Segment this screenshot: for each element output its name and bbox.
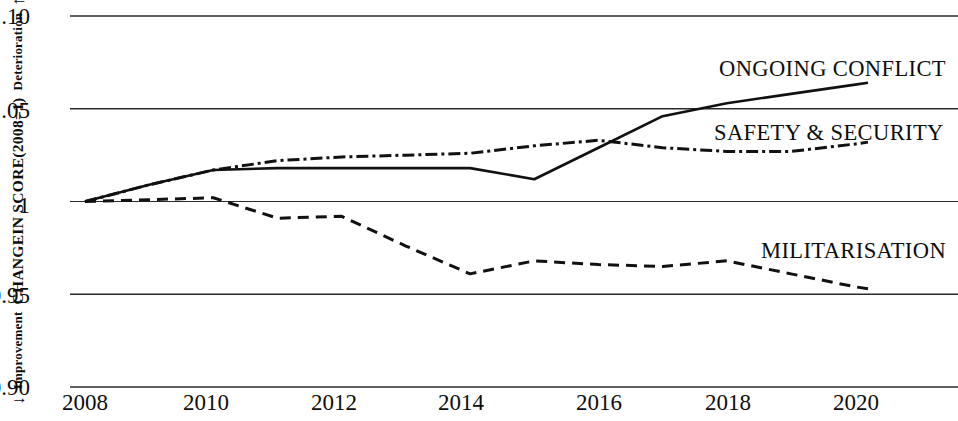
x-tick-2012: 2012 [289,390,379,416]
y-axis-main-label: CHANGEIN SCORE(2008=1) [9,97,27,304]
series-line-militarisation [85,198,868,289]
x-tick-2018: 2018 [683,390,773,416]
series-label-safety-security: SAFETY & SECURITY [714,120,944,146]
series-label-ongoing-conflict: ONGOING CONFLICT [719,56,946,82]
deterioration-arrow-icon: ↑ [10,0,27,6]
x-tick-2016: 2016 [554,390,644,416]
series-label-militarisation: MILITARISATION [761,238,946,264]
series-line-safety-security [85,140,868,201]
y-axis-title: ↓ Improvement CHANGEIN SCORE(2008=1) Det… [7,1,29,401]
x-tick-2020: 2020 [811,390,901,416]
y-axis-improvement-label: Improvement [10,311,26,389]
x-tick-2010: 2010 [161,390,251,416]
x-tick-2008: 2008 [40,390,130,416]
series-lines [85,83,868,289]
y-axis-deterioration-label: Deterioration [10,13,26,91]
x-tick-2014: 2014 [416,390,506,416]
improvement-arrow-icon: ↓ [10,396,27,405]
line-chart: 1.10 1.05 1 0.95 0.90 2008 2010 2012 201… [0,0,958,421]
